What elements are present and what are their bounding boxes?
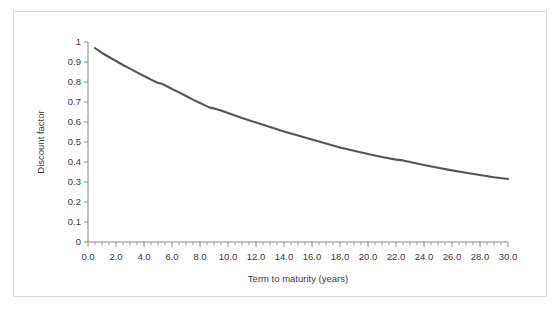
- y-tick-label: 0.5: [68, 136, 81, 147]
- x-tick-label: 14.0: [275, 251, 294, 262]
- y-tick-label: 0.6: [68, 116, 81, 127]
- discount-factor-curve: [95, 48, 508, 179]
- y-tick-label: 0.7: [68, 96, 81, 107]
- y-tick-label: 0.2: [68, 196, 81, 207]
- y-tick-label: 0.1: [68, 216, 81, 227]
- x-tick-label: 28.0: [471, 251, 490, 262]
- x-tick-label: 0.0: [81, 251, 94, 262]
- x-tick-label: 20.0: [359, 251, 378, 262]
- chart-figure: 00.10.20.30.40.50.60.70.80.910.02.04.06.…: [0, 0, 560, 309]
- y-tick-label: 0.9: [68, 56, 81, 67]
- x-tick-label: 8.0: [193, 251, 206, 262]
- y-tick-label: 0.4: [68, 156, 81, 167]
- x-tick-label: 26.0: [443, 251, 462, 262]
- x-axis-title: Term to maturity (years): [248, 273, 348, 284]
- y-tick-label: 1: [76, 36, 81, 47]
- labels-group: 00.10.20.30.40.50.60.70.80.910.02.04.06.…: [35, 36, 517, 284]
- y-tick-label: 0.8: [68, 76, 81, 87]
- x-tick-label: 6.0: [165, 251, 178, 262]
- x-tick-label: 4.0: [137, 251, 150, 262]
- x-tick-label: 30.0: [499, 251, 518, 262]
- axes-group: [84, 42, 508, 247]
- y-axis-title: Discount factor: [35, 110, 46, 173]
- x-tick-label: 10.0: [219, 251, 238, 262]
- y-tick-label: 0.3: [68, 176, 81, 187]
- x-tick-label: 12.0: [247, 251, 266, 262]
- x-tick-label: 24.0: [415, 251, 434, 262]
- x-tick-label: 16.0: [303, 251, 322, 262]
- x-tick-label: 22.0: [387, 251, 406, 262]
- plot-group: [95, 48, 508, 179]
- y-tick-label: 0: [76, 236, 81, 247]
- x-tick-label: 2.0: [109, 251, 122, 262]
- chart-svg: 00.10.20.30.40.50.60.70.80.910.02.04.06.…: [0, 0, 560, 309]
- x-tick-label: 18.0: [331, 251, 350, 262]
